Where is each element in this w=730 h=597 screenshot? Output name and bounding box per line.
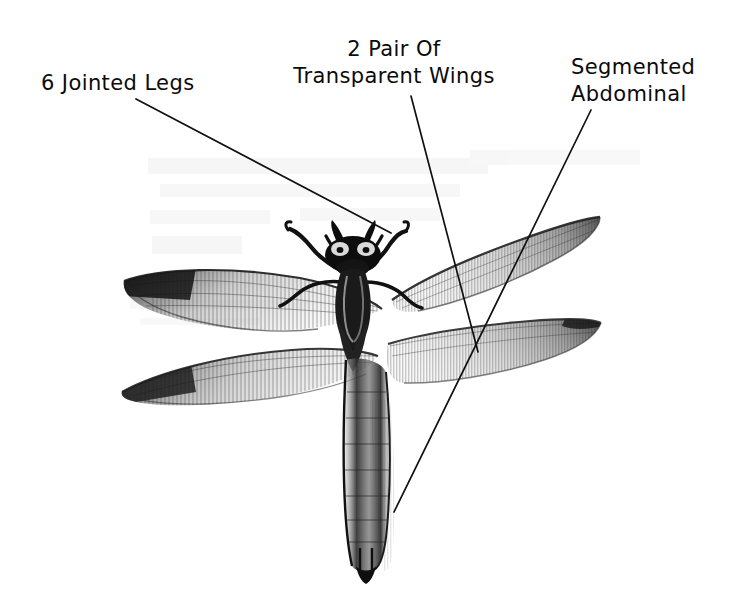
wing-lower-right	[386, 316, 606, 390]
label-abdomen: SegmentedAbdominal	[571, 55, 695, 106]
label-legs: 6 Jointed Legs	[41, 71, 195, 95]
label-line: 2 Pair Of	[347, 37, 440, 61]
label-line: Transparent Wings	[292, 64, 495, 88]
labels-group: 6 Jointed Legs 2 Pair OfTransparent Wing…	[41, 37, 695, 106]
label-line: 6 Jointed Legs	[41, 71, 195, 95]
dragonfly-illustration	[118, 215, 606, 584]
head	[325, 220, 381, 277]
label-line: Abdominal	[571, 82, 687, 106]
leader-line-wings	[411, 96, 478, 352]
dragonfly-diagram-canvas: 6 Jointed Legs 2 Pair OfTransparent Wing…	[0, 0, 730, 597]
label-line: Segmented	[571, 55, 695, 79]
abdomen	[344, 359, 400, 585]
label-wings: 2 Pair OfTransparent Wings	[292, 37, 495, 88]
diagram-svg: 6 Jointed Legs 2 Pair OfTransparent Wing…	[0, 0, 730, 597]
